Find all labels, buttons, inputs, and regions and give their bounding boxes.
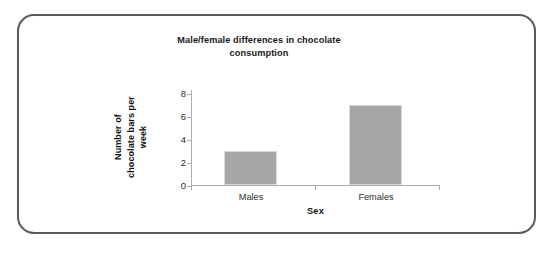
y-tick-mark <box>187 140 191 141</box>
y-tick-label: 2 <box>181 158 186 168</box>
x-category-label-males: Males <box>239 193 264 202</box>
y-tick-mark <box>187 117 191 118</box>
y-tick-label: 0 <box>181 181 186 191</box>
chart-title-line-2: consumption <box>59 47 459 60</box>
y-tick-group-8: 8 <box>191 94 192 95</box>
chart-title-line-1: Male/female differences in chocolate <box>177 35 340 45</box>
bar-chart-figure: Male/female differences in chocolate con… <box>19 16 538 236</box>
y-tick-group-4: 4 <box>191 140 192 141</box>
y-tick-group-2: 2 <box>191 163 192 164</box>
x-tick-mark-start <box>191 186 192 190</box>
y-axis-title-text: Number of chocolate bars per week <box>112 96 150 178</box>
y-axis-title-line-1: Number of <box>112 96 125 178</box>
screenshot-root: Male/female differences in chocolate con… <box>0 0 555 254</box>
x-category-label-females: Females <box>358 193 393 202</box>
y-tick-label: 4 <box>181 135 186 145</box>
x-tick-mark-end <box>439 186 440 190</box>
rounded-frame-border: Male/female differences in chocolate con… <box>17 14 536 234</box>
y-tick-group-6: 6 <box>191 117 192 118</box>
bar-males <box>224 151 277 186</box>
y-axis-line <box>191 90 192 186</box>
plot-area: 8 6 4 2 0 <box>191 94 440 186</box>
bar-females <box>349 105 402 186</box>
y-tick-mark <box>187 163 191 164</box>
y-tick-label: 6 <box>181 112 186 122</box>
y-axis-title-line-2: chocolate bars per <box>125 96 138 178</box>
y-tick-mark <box>187 94 191 95</box>
y-tick-label: 8 <box>181 89 186 99</box>
chart-title: Male/female differences in chocolate con… <box>59 34 459 60</box>
x-axis-title: Sex <box>191 206 440 216</box>
y-axis-title: Number of chocolate bars per week <box>105 78 157 196</box>
x-tick-mark-middle <box>315 186 316 190</box>
y-axis-title-line-3: week <box>137 96 150 178</box>
